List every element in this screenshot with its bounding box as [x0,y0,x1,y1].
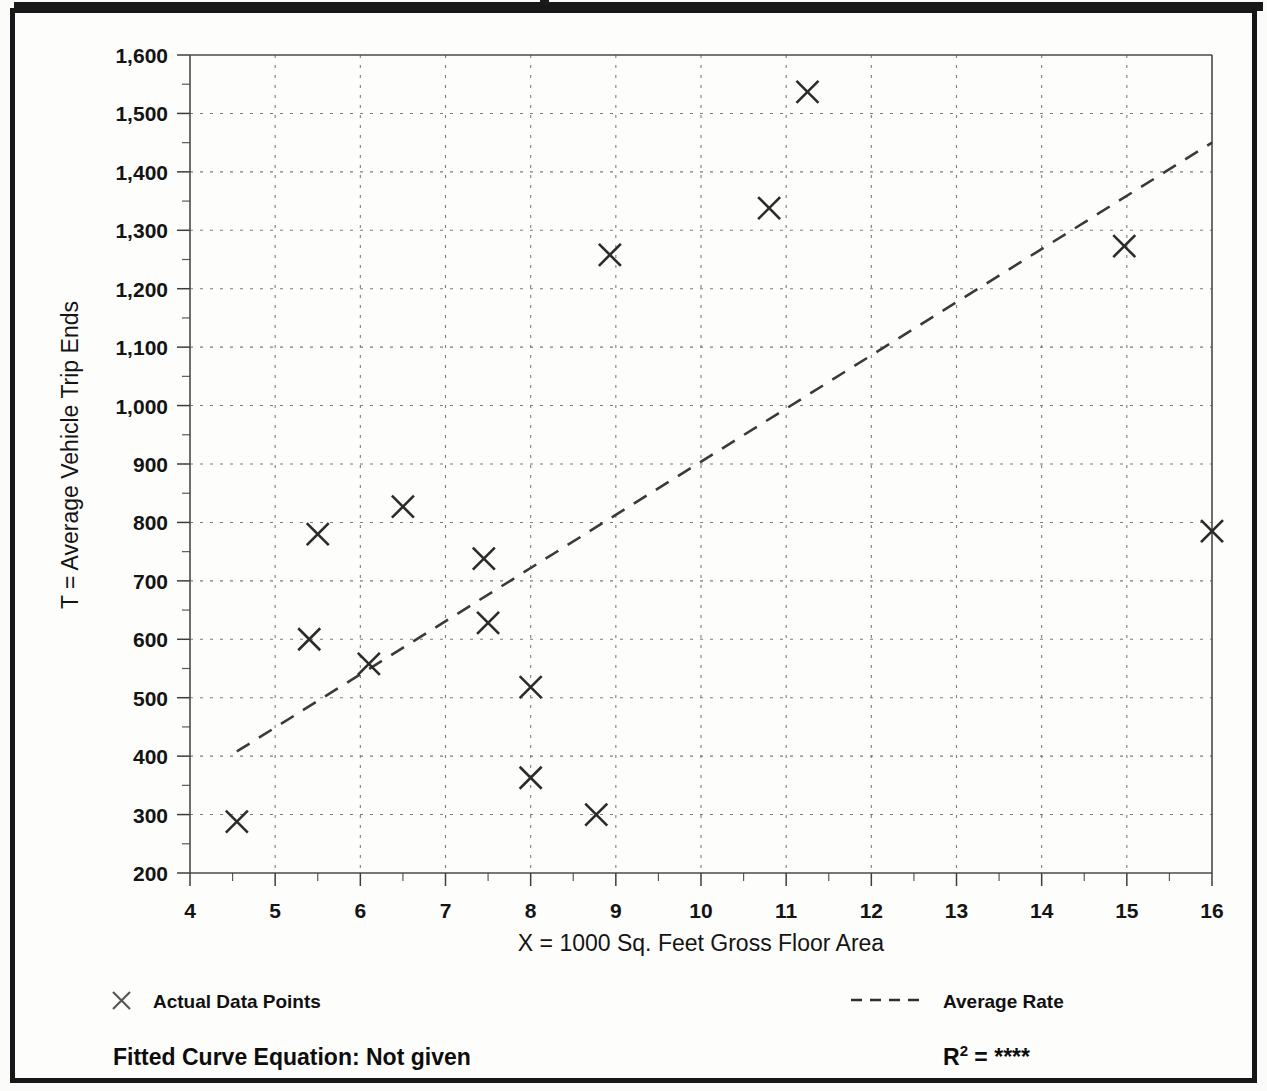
average-rate-line [237,143,1212,752]
y-tick-label: 1,100 [115,336,168,359]
data-point-marker [1113,235,1135,257]
x-tick-label: 4 [184,899,196,922]
x-tick-label: 12 [860,899,883,922]
x-tick-label: 9 [610,899,622,922]
grid-layer [190,55,1212,873]
scatter-chart: 2003004005006007008009001,0001,1001,2001… [0,0,1267,1091]
x-tick-label: 7 [440,899,452,922]
average-rate-trend-line [237,143,1212,752]
x-tick-label: 14 [1030,899,1054,922]
svg-text:R2 = ****: R2 = **** [943,1042,1030,1070]
data-point-marker [477,612,499,634]
x-tick-label: 11 [775,899,798,922]
y-axis-title: T = Average Vehicle Trip Ends [57,301,83,609]
x-tick-label: 6 [354,899,366,922]
r2-equals: = [968,1044,994,1070]
x-axis-title: X = 1000 Sq. Feet Gross Floor Area [518,930,884,956]
y-tick-label: 1,300 [115,219,168,242]
legend-label-average-rate: Average Rate [943,991,1064,1012]
y-tick-label: 400 [133,745,168,768]
y-tick-label: 800 [133,511,168,534]
legend-item-average-rate: Average Rate [851,991,1064,1012]
y-tick-label: 300 [133,804,168,827]
y-tick-label: 900 [133,453,168,476]
data-point-marker [307,523,329,545]
y-tick-label: 200 [133,862,168,885]
data-point-marker [520,676,542,698]
r-squared-annotation: R2 = **** [943,1042,1030,1070]
y-tick-label: 1,000 [115,395,168,418]
scanned-chart-page: 2003004005006007008009001,0001,1001,2001… [0,0,1267,1091]
fitted-curve-equation: Fitted Curve Equation: Not given [113,1044,471,1070]
x-tick-label: 13 [945,899,968,922]
y-tick-label: 700 [133,570,168,593]
r2-base: R [943,1044,960,1070]
data-point-marker [473,548,495,570]
y-tick-label: 1,400 [115,161,168,184]
data-point-marker [758,197,780,219]
r2-superscript: 2 [960,1042,968,1059]
axis-ticks-layer [177,55,1212,886]
r2-value: **** [994,1044,1030,1070]
x-tick-label: 15 [1115,899,1139,922]
y-tick-label: 1,500 [115,102,168,125]
x-cross-icon [113,992,130,1009]
y-tick-label: 600 [133,628,168,651]
x-tick-label: 16 [1200,899,1223,922]
x-tick-label: 8 [525,899,537,922]
data-point-marker [392,496,414,518]
x-tick-label: 10 [689,899,712,922]
y-tick-label: 500 [133,687,168,710]
y-tick-label: 1,200 [115,278,168,301]
legend-label-actual-data-points: Actual Data Points [153,991,321,1012]
data-point-marker [226,811,248,833]
data-point-marker [585,804,607,826]
x-tick-label: 5 [269,899,281,922]
legend-item-actual-data-points: Actual Data Points [113,991,321,1012]
data-point-marker [599,244,621,266]
data-point-marker [796,81,818,103]
tick-labels-layer: 2003004005006007008009001,0001,1001,2001… [115,44,1223,922]
y-tick-label: 1,600 [115,44,168,67]
data-points-layer [226,81,1223,833]
